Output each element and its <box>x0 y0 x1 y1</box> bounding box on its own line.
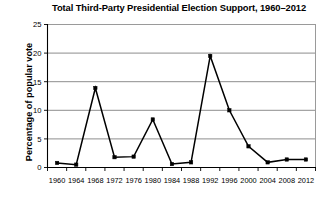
y-tick-label: 15 <box>33 78 41 87</box>
data-point-marker <box>75 163 78 166</box>
x-tick-label: 2004 <box>259 176 275 185</box>
data-point-marker <box>113 156 116 159</box>
y-tick-label: 25 <box>33 20 41 29</box>
y-tick-label: 10 <box>33 106 41 115</box>
data-point-marker <box>247 145 250 148</box>
data-point-marker <box>228 109 231 112</box>
x-tick-label: 2000 <box>240 176 256 185</box>
x-tick-label: 1972 <box>106 176 122 185</box>
data-point-marker <box>170 162 173 165</box>
x-tick-label: 1964 <box>68 176 84 185</box>
x-tick-label: 1992 <box>202 176 218 185</box>
x-tick-label: 1960 <box>49 176 65 185</box>
plot-border <box>48 25 316 168</box>
chart-figure: Total Third-Party Presidential Election … <box>0 0 324 217</box>
x-tick-label: 1968 <box>87 176 103 185</box>
data-point-marker <box>266 161 269 164</box>
data-point-marker <box>132 155 135 158</box>
y-tick-labels-group: 0510152025 <box>33 20 41 172</box>
plot-area: 0510152025 19601964196819721976198019841… <box>0 0 324 217</box>
x-tick-label: 1996 <box>221 176 237 185</box>
gridlines-group <box>48 53 316 139</box>
data-point-marker <box>189 161 192 164</box>
x-tick-labels-group: 1960196419681972197619801984198819921996… <box>49 176 314 185</box>
tick-marks-group <box>44 25 316 172</box>
x-tick-label: 1984 <box>164 176 180 185</box>
y-tick-label: 5 <box>37 135 41 144</box>
data-point-marker <box>55 161 58 164</box>
x-tick-label: 2008 <box>279 176 295 185</box>
data-point-marker <box>151 118 154 121</box>
y-tick-label: 0 <box>37 163 41 172</box>
data-point-marker <box>209 54 212 57</box>
data-point-marker <box>94 86 97 89</box>
data-point-marker <box>285 158 288 161</box>
x-tick-label: 1980 <box>145 176 161 185</box>
x-tick-label: 1976 <box>125 176 141 185</box>
data-point-marker <box>304 158 307 161</box>
x-tick-label: 1988 <box>183 176 199 185</box>
y-tick-label: 20 <box>33 49 41 58</box>
x-tick-label: 2012 <box>298 176 314 185</box>
